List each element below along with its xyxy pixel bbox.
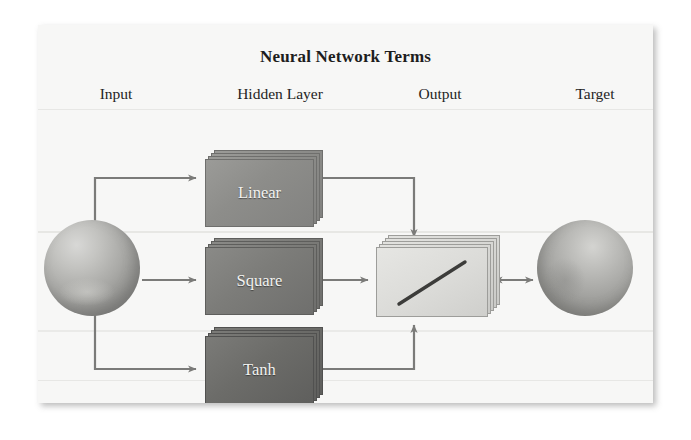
- column-label-input: Input: [56, 85, 176, 103]
- scan-band: [38, 330, 653, 332]
- column-label-output: Output: [380, 85, 500, 103]
- diagonal-line-icon: [377, 248, 487, 316]
- node-tanh[interactable]: Tanh: [205, 336, 312, 402]
- scan-band: [38, 109, 653, 110]
- node-output-face: [376, 247, 488, 317]
- figure-panel: Neural Network Terms Input Hidden Layer …: [38, 25, 653, 403]
- node-square[interactable]: Square: [205, 247, 312, 313]
- column-label-target: Target: [535, 85, 653, 103]
- connector-wires: [38, 25, 653, 403]
- node-target-sphere[interactable]: [537, 220, 633, 316]
- edge-tanh-to-output: [315, 325, 414, 369]
- figure-title: Neural Network Terms: [38, 47, 653, 67]
- node-tanh-label: Tanh: [205, 336, 314, 403]
- node-linear[interactable]: Linear: [205, 159, 312, 225]
- column-label-hidden-layer: Hidden Layer: [200, 85, 360, 103]
- edge-linear-to-output: [315, 178, 414, 237]
- node-square-label: Square: [205, 247, 314, 315]
- node-input-sphere[interactable]: [44, 220, 140, 316]
- node-output[interactable]: [376, 247, 486, 315]
- figure-root: Neural Network Terms Input Hidden Layer …: [0, 0, 691, 440]
- node-linear-label: Linear: [205, 159, 314, 227]
- scan-band: [38, 380, 653, 381]
